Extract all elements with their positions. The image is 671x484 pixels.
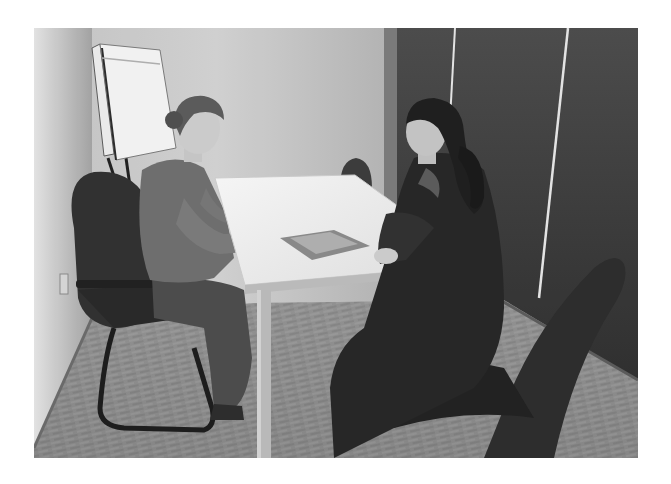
meeting-room-photo (34, 28, 638, 458)
photo-illustration (34, 28, 638, 458)
page: Two women sitting across a white table i… (0, 0, 671, 484)
